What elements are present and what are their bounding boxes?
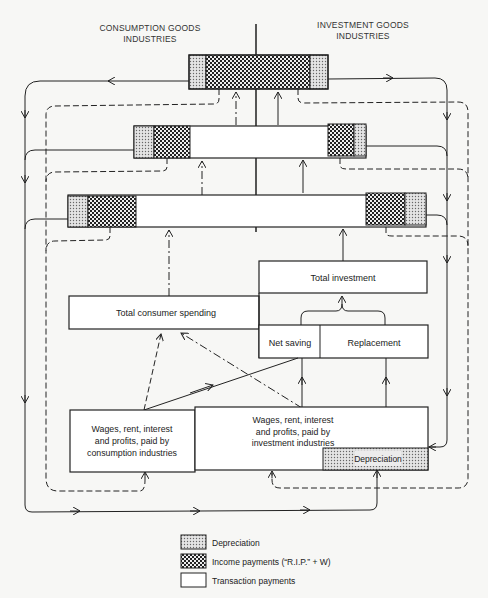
line-wages-to-saving xyxy=(144,358,298,410)
flow-line-right-low xyxy=(426,215,447,225)
legend-label-depreciation: Depreciation xyxy=(212,538,260,548)
dashed-line-right-low xyxy=(386,227,468,246)
legend-swatch-depreciation xyxy=(181,535,206,549)
legend-swatch-income xyxy=(181,554,206,568)
income-bar-middle xyxy=(134,124,366,158)
legend-label-transaction: Transaction payments xyxy=(212,576,295,586)
legend-label-income: Income payments (“R.I.P.” + W) xyxy=(212,557,331,567)
dashed-line-right-mid xyxy=(340,158,468,179)
wages-consumption-line3: consumption industries xyxy=(87,448,178,458)
circular-flow-diagram: CONSUMPTION GOODS INDUSTRIES INVESTMENT … xyxy=(0,0,488,598)
flow-line-left-mid xyxy=(25,150,134,160)
net-saving-label: Net saving xyxy=(269,338,312,348)
legend: Depreciation Income payments (“R.I.P.” +… xyxy=(181,535,331,587)
brace-combine xyxy=(301,304,385,325)
header-investment-line2: INDUSTRIES xyxy=(336,31,390,41)
dashed-arrow-wages-to-spending xyxy=(144,334,161,410)
replacement-label: Replacement xyxy=(347,338,401,348)
total-consumer-spending-label: Total consumer spending xyxy=(116,308,216,318)
income-bar-low xyxy=(68,193,426,227)
income-bar-top xyxy=(189,55,328,89)
wages-consumption-line1: Wages, rent, interest xyxy=(92,424,173,434)
header-consumption: CONSUMPTION GOODS INDUSTRIES xyxy=(99,23,200,44)
header-consumption-line1: CONSUMPTION GOODS xyxy=(99,23,200,33)
flow-line-right-mid xyxy=(366,146,447,156)
wages-investment-line1: Wages, rent, interest xyxy=(253,415,334,425)
dashed-line-left-low xyxy=(46,227,110,251)
header-investment-line1: INVESTMENT GOODS xyxy=(317,20,409,30)
wages-investment-line2: and profits, paid by xyxy=(256,427,331,437)
header-consumption-line2: INDUSTRIES xyxy=(123,34,177,44)
wages-consumption-line2: and profits, paid by xyxy=(95,436,170,446)
total-investment-label: Total investment xyxy=(310,273,376,283)
wages-investment-line3: investment industries xyxy=(252,438,335,448)
dashed-line-left-mid xyxy=(46,158,167,182)
header-investment: INVESTMENT GOODS INDUSTRIES xyxy=(317,20,409,41)
legend-swatch-transaction xyxy=(181,573,206,587)
depreciation-inner-label: Depreciation xyxy=(354,454,402,464)
